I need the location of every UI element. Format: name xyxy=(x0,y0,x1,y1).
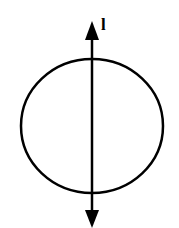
diagram-canvas: l xyxy=(0,0,179,228)
arrow-down-icon xyxy=(85,210,99,228)
axis-label: l xyxy=(101,15,106,34)
arrow-up-icon xyxy=(85,21,99,40)
